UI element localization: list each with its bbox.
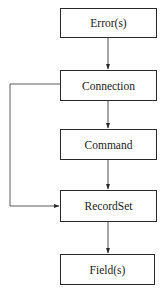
node-command: Command [60,129,157,160]
node-errors-label: Error(s) [90,17,126,29]
node-connection-label: Connection [82,80,135,92]
node-command-label: Command [85,139,133,151]
node-errors: Error(s) [60,8,157,38]
arrow-connection-to-recordset-bypass [10,84,60,206]
node-recordset: RecordSet [60,190,157,222]
ado-object-model-diagram: Error(s) Connection Command RecordSet Fi… [0,0,164,294]
node-fields-label: Field(s) [90,264,126,276]
node-fields: Field(s) [60,254,155,285]
node-connection: Connection [60,70,157,101]
node-recordset-label: RecordSet [85,200,133,212]
